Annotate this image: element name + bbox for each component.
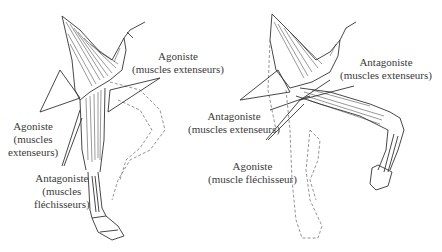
label-left-agonist-side: Agoniste (muscles extenseurs) bbox=[8, 120, 58, 159]
label-desc: (muscles bbox=[34, 185, 90, 198]
label-title: Antagoniste bbox=[188, 110, 280, 123]
label-left-agonist-top: Agoniste (muscles extenseurs) bbox=[132, 50, 224, 76]
label-desc: (muscles extenseurs) bbox=[340, 69, 432, 82]
muscle-diagram: Agoniste (muscles extenseurs) Agoniste (… bbox=[0, 0, 442, 252]
label-desc: extenseurs) bbox=[8, 146, 58, 159]
label-desc: (muscles extenseurs) bbox=[132, 63, 224, 76]
label-title: Agoniste bbox=[132, 50, 224, 63]
label-desc: (muscles bbox=[8, 133, 58, 146]
label-right-agonist: Agoniste (muscle fléchisseur) bbox=[208, 160, 297, 186]
label-right-antagonist-mid: Antagoniste (muscles extenseurs) bbox=[188, 110, 280, 136]
label-desc: (muscles extenseurs) bbox=[188, 123, 280, 136]
label-title: Antagoniste bbox=[34, 172, 90, 185]
label-title: Agoniste bbox=[208, 160, 297, 173]
label-desc: (muscle fléchisseur) bbox=[208, 173, 297, 186]
label-right-antagonist-top: Antagoniste (muscles extenseurs) bbox=[340, 56, 432, 82]
label-desc: fléchisseurs) bbox=[34, 198, 90, 211]
label-title: Agoniste bbox=[8, 120, 58, 133]
label-left-antagonist: Antagoniste (muscles fléchisseurs) bbox=[34, 172, 90, 211]
label-title: Antagoniste bbox=[340, 56, 432, 69]
